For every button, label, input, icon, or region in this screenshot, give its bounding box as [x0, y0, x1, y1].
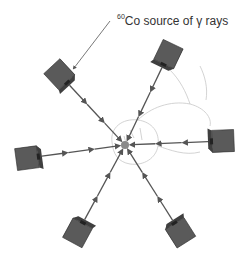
cobalt-source-box-lower-right [163, 213, 197, 248]
gamma-beam-upper-right [140, 92, 150, 114]
gamma-beam-left [42, 153, 65, 156]
gamma-beam-lower-left [97, 175, 108, 196]
gamma-beam-upper-left [70, 85, 86, 102]
gamma-beam-lower-right [159, 199, 173, 220]
cobalt-source-box-right [207, 128, 234, 153]
gamma-beam-lower-right [144, 175, 158, 196]
gamma-beam-upper-right [152, 68, 162, 90]
source-label-text: Co source of γ rays [125, 14, 228, 28]
gamma-beam-lower-left [85, 199, 96, 220]
cobalt-source-box-upper-right [150, 39, 183, 73]
gamma-beam-left [68, 149, 91, 152]
gamma-beam-right [185, 142, 208, 143]
source-label: 60Co source of γ rays [117, 14, 228, 28]
gamma-beam-lower-left [110, 151, 121, 172]
cobalt-source-box-lower-left [63, 214, 96, 248]
gamma-beam-right [132, 144, 155, 145]
gamma-beam-right [158, 143, 181, 144]
focal-point [121, 141, 129, 149]
isotope-mass: 60 [117, 13, 125, 20]
diagram-canvas [0, 0, 250, 262]
gamma-beam-lower-right [129, 151, 143, 172]
cobalt-source-box-left [15, 145, 44, 172]
gamma-beam-left [95, 146, 118, 149]
label-leader-line [74, 21, 110, 68]
gamma-knife-diagram: 60Co source of γ rays [0, 0, 250, 262]
gamma-beam-upper-left [87, 104, 103, 121]
patient-head-icon [112, 66, 211, 164]
